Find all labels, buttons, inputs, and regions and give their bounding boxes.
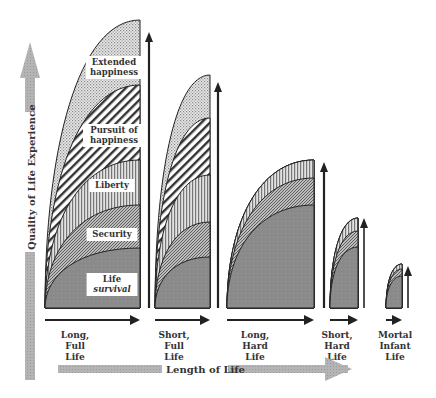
category-labels: Long,FullLifeShort,FullLifeLong,HardLife… <box>61 330 413 362</box>
arrowhead-icon <box>304 315 314 325</box>
x-axis-label: Length of Life <box>166 364 245 375</box>
layer-life-survival <box>227 205 314 308</box>
category-label: Mortal <box>378 330 413 340</box>
category-label: Long, <box>61 330 89 341</box>
shape-4 <box>386 264 412 325</box>
category-label: Short, <box>158 330 189 341</box>
arrowhead-icon <box>214 82 222 92</box>
layer-label: happiness <box>90 135 138 145</box>
category-label: Life <box>385 352 405 362</box>
arrowhead-icon <box>130 315 140 325</box>
arrowhead-icon <box>360 218 368 228</box>
layer-life-survival <box>386 276 402 308</box>
layer-label: Pursuit of <box>90 125 139 135</box>
category-label: Long, <box>241 330 269 341</box>
layer-label: Life <box>103 274 122 284</box>
arrowhead-icon <box>348 315 358 325</box>
category-label: Life <box>65 352 85 362</box>
arrowhead-icon <box>404 266 412 276</box>
category-label: Hard <box>242 341 268 351</box>
category-label: Full <box>164 341 184 351</box>
shape-3 <box>330 218 368 325</box>
arrowhead-icon <box>200 315 210 325</box>
y-axis-label: Quality of Life Experience <box>26 105 37 251</box>
layer-label: Extended <box>92 57 136 67</box>
arrowhead-icon <box>392 315 402 325</box>
layer-label: Liberty <box>95 180 130 190</box>
category-label: Short, <box>321 330 352 341</box>
category-label: Hard <box>324 341 350 351</box>
arrowhead-icon <box>145 32 153 42</box>
arrowhead-icon <box>320 162 328 172</box>
layer-label: survival <box>93 284 131 294</box>
category-label: Full <box>65 341 85 351</box>
quality-of-life-diagram: Quality of Life Experience Long,FullLife… <box>0 0 436 398</box>
category-label: Life <box>245 352 265 362</box>
layer-label: happiness <box>90 67 138 77</box>
layer-label: Security <box>92 229 133 239</box>
shape-2 <box>227 160 328 325</box>
category-label: Infant <box>379 341 411 351</box>
shape-1 <box>155 75 222 325</box>
